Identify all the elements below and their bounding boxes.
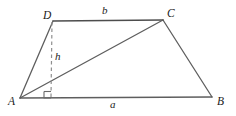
side-bc-line [163, 20, 212, 97]
diagonal-ac-line [20, 20, 163, 98]
side-da-line [20, 21, 53, 98]
side-length-label-a: a [110, 99, 116, 110]
height-label-h: h [55, 51, 61, 62]
geometry-figure: A B C D a b h [0, 0, 236, 116]
height-dashed-line [51, 22, 52, 97]
vertex-label-a: A [8, 96, 15, 108]
vertex-label-b: B [217, 96, 224, 108]
side-length-label-b: b [102, 5, 108, 16]
right-angle-marker [44, 92, 51, 99]
side-cd-line [53, 20, 163, 21]
vertex-label-d: D [43, 10, 51, 22]
vertex-label-c: C [167, 8, 175, 20]
trapezoid-diagram [0, 0, 236, 116]
